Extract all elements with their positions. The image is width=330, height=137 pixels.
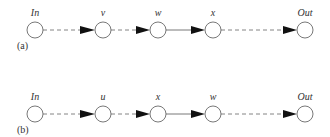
node-label: w xyxy=(155,7,162,18)
node-label: Out xyxy=(298,91,313,102)
node-label: v xyxy=(101,7,106,18)
node-w xyxy=(205,106,221,122)
node-x xyxy=(150,106,166,122)
diagram-a: In v w x Out (a) xyxy=(17,7,313,52)
node-in xyxy=(27,22,43,38)
path-diagram: In v w x Out (a) In u x w Out (b) xyxy=(0,0,330,137)
node-label: u xyxy=(101,91,106,102)
panel-label: (b) xyxy=(17,124,29,136)
node-u xyxy=(95,106,111,122)
node-x xyxy=(205,22,221,38)
node-in xyxy=(27,106,43,122)
node-label: Out xyxy=(298,7,313,18)
node-out xyxy=(297,22,313,38)
arrowhead-icon xyxy=(80,26,95,34)
arrowhead-icon xyxy=(191,26,205,34)
node-label: x xyxy=(210,7,216,18)
node-label: In xyxy=(30,91,39,102)
node-label: x xyxy=(155,91,161,102)
arrowhead-icon xyxy=(80,110,95,118)
node-label: In xyxy=(30,7,39,18)
node-out xyxy=(297,106,313,122)
node-label: w xyxy=(210,91,217,102)
arrowhead-icon xyxy=(283,110,297,118)
arrowhead-icon xyxy=(136,110,150,118)
node-w xyxy=(150,22,166,38)
arrowhead-icon xyxy=(136,26,150,34)
node-v xyxy=(95,22,111,38)
panel-label: (a) xyxy=(17,40,28,52)
arrowhead-icon xyxy=(283,26,297,34)
arrowhead-icon xyxy=(191,110,205,118)
diagram-b: In u x w Out (b) xyxy=(17,91,313,136)
